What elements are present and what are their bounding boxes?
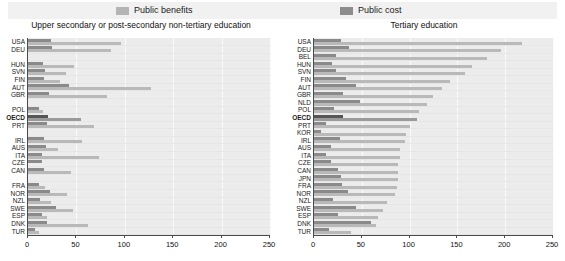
row-separator bbox=[28, 90, 270, 91]
row-separator bbox=[314, 128, 553, 129]
y-axis-label-can: CAN bbox=[0, 167, 25, 174]
row-separator bbox=[28, 166, 270, 167]
y-axis-label-deu: DEU bbox=[283, 46, 311, 53]
gridline bbox=[270, 38, 271, 235]
plot-area-tertiary bbox=[313, 38, 553, 235]
bar-public-benefits bbox=[314, 125, 410, 128]
row-separator bbox=[314, 189, 553, 190]
x-axis-tick-label-50: 50 bbox=[71, 240, 79, 249]
bar-public-benefits bbox=[314, 72, 465, 75]
y-axis-label-nzl: NZL bbox=[0, 197, 25, 204]
y-axis-label-tur: TUR bbox=[283, 228, 311, 235]
x-axis-tick-label-100: 100 bbox=[402, 240, 415, 249]
y-axis-label-ita: ITA bbox=[0, 152, 25, 159]
plot-area-upper-secondary bbox=[27, 38, 270, 235]
y-axis-label-oecd: OECD bbox=[0, 114, 25, 121]
y-axis-label-tur: TUR bbox=[0, 228, 25, 235]
y-axis-label-usa: USA bbox=[0, 38, 25, 45]
x-axis-tick bbox=[27, 235, 28, 238]
row-separator bbox=[314, 113, 553, 114]
x-axis-tick bbox=[221, 235, 222, 238]
y-axis-label-prt: PRT bbox=[0, 122, 25, 129]
bar-public-benefits bbox=[314, 118, 417, 121]
bar-public-benefits bbox=[314, 209, 383, 212]
x-axis-tick-label-0: 0 bbox=[25, 240, 29, 249]
y-axis-label-usa: USA bbox=[283, 38, 311, 45]
y-axis-label-aus: AUS bbox=[0, 144, 25, 151]
row-separator bbox=[314, 143, 553, 144]
x-axis-tick bbox=[361, 235, 362, 238]
legend-swatch-icon-cost bbox=[340, 7, 353, 15]
bar-public-benefits bbox=[28, 42, 121, 45]
bar-public-benefits bbox=[28, 49, 111, 52]
row-separator bbox=[314, 151, 553, 152]
chart-legend: Public benefits Public cost bbox=[8, 2, 557, 19]
row-separator bbox=[28, 98, 270, 99]
y-axis-label-dnk: DNK bbox=[0, 220, 25, 227]
bar-public-benefits bbox=[28, 224, 88, 227]
y-axis-label-gbr: GBR bbox=[0, 91, 25, 98]
row-separator bbox=[314, 212, 553, 213]
y-axis-label-irl: IRL bbox=[283, 137, 311, 144]
x-axis-tick bbox=[456, 235, 457, 238]
bar-public-benefits bbox=[314, 110, 419, 113]
bar-public-benefits bbox=[314, 224, 376, 227]
y-axis-label-esp: ESP bbox=[0, 212, 25, 219]
bar-public-benefits bbox=[28, 231, 39, 234]
legend-swatch-icon-benefits bbox=[116, 7, 129, 15]
bar-public-benefits bbox=[28, 118, 81, 121]
panel-tertiary: Tertiary education 050100150200250 USADE… bbox=[283, 20, 565, 261]
bar-public-benefits bbox=[314, 140, 405, 143]
gridline bbox=[553, 38, 554, 235]
y-axis-label-fin: FIN bbox=[283, 76, 311, 83]
y-axis-label-deu: DEU bbox=[0, 46, 25, 53]
bar-public-benefits bbox=[28, 125, 94, 128]
y-axis-label-nor: NOR bbox=[0, 190, 25, 197]
row-separator bbox=[28, 128, 270, 129]
y-axis-label-hun: HUN bbox=[283, 61, 311, 68]
row-separator bbox=[28, 204, 270, 205]
y-axis-label-esp: ESP bbox=[283, 212, 311, 219]
legend-label-cost: Public cost bbox=[358, 4, 402, 17]
y-axis-label-pol: POL bbox=[0, 106, 25, 113]
x-axis-tick bbox=[552, 235, 553, 238]
panel-title-upper-secondary: Upper secondary or post-secondary non-te… bbox=[0, 20, 282, 30]
bar-public-benefits bbox=[28, 216, 47, 219]
x-axis-tick-label-200: 200 bbox=[214, 240, 227, 249]
bar-public-benefits bbox=[28, 95, 107, 98]
x-axis-tick-label-0: 0 bbox=[311, 240, 315, 249]
bar-public-benefits bbox=[314, 42, 522, 45]
row-separator bbox=[28, 75, 270, 76]
row-separator bbox=[314, 174, 553, 175]
x-axis-tick bbox=[313, 235, 314, 238]
row-separator bbox=[28, 174, 270, 175]
x-axis-tick bbox=[409, 235, 410, 238]
bar-public-benefits bbox=[28, 140, 82, 143]
y-axis-label-dnk: DNK bbox=[283, 220, 311, 227]
row-separator bbox=[314, 90, 553, 91]
x-axis-line-right bbox=[313, 235, 553, 236]
bar-public-benefits bbox=[314, 133, 406, 136]
legend-label-benefits: Public benefits bbox=[134, 4, 193, 17]
row-separator bbox=[314, 166, 553, 167]
row-separator bbox=[314, 106, 553, 107]
y-axis-label-jpn: JPN bbox=[283, 175, 311, 182]
bar-public-benefits bbox=[314, 193, 395, 196]
bar-public-benefits bbox=[314, 156, 400, 159]
y-axis-label-kor: KOR bbox=[283, 129, 311, 136]
y-axis-label-oecd: OECD bbox=[283, 114, 311, 121]
y-axis-label-aut: AUT bbox=[0, 84, 25, 91]
x-axis-tick-label-150: 150 bbox=[450, 240, 463, 249]
x-axis-tick-label-250: 250 bbox=[263, 240, 276, 249]
y-axis-label-gbr: GBR bbox=[283, 91, 311, 98]
row-separator bbox=[28, 181, 270, 182]
y-axis-label-fra: FRA bbox=[283, 182, 311, 189]
bar-public-benefits bbox=[314, 186, 397, 189]
row-separator bbox=[28, 68, 270, 69]
bar-public-benefits bbox=[314, 163, 398, 166]
bar-public-benefits bbox=[314, 231, 351, 234]
y-axis-label-cze: CZE bbox=[283, 159, 311, 166]
bar-public-benefits bbox=[314, 49, 501, 52]
row-separator bbox=[28, 227, 270, 228]
y-axis-label-swe: SWE bbox=[0, 205, 25, 212]
